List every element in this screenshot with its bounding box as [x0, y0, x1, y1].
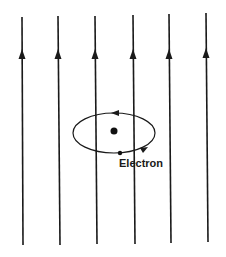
arrow-up-icon	[19, 49, 26, 59]
orbit-arrow-right-icon	[140, 147, 148, 153]
field-line-1	[19, 17, 26, 245]
field-line-3	[92, 16, 99, 244]
arrow-up-icon	[130, 49, 137, 59]
arrow-up-icon	[203, 48, 210, 58]
electron-label: Electron	[119, 157, 163, 169]
field-line-4	[130, 15, 137, 244]
field-line-6	[203, 13, 210, 242]
nucleus	[111, 128, 118, 135]
field-line-2	[55, 16, 62, 245]
electron-dot	[118, 151, 122, 155]
arrow-up-icon	[166, 49, 173, 59]
field-diagram: Electron	[0, 0, 226, 257]
arrow-up-icon	[55, 49, 62, 59]
field-line-5	[166, 14, 173, 243]
orbit-arrow-left-icon	[111, 110, 119, 116]
arrow-up-icon	[92, 49, 99, 59]
